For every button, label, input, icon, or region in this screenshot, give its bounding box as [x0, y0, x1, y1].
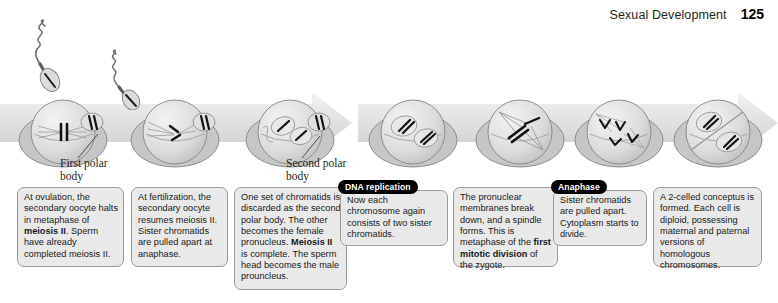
- stage-tab-anaphase-label: Anaphase: [558, 182, 600, 192]
- caption-first-mitotic-division-text: The pronuclear membranes break down, and…: [460, 192, 551, 270]
- cell-mitotic-anaphase: [572, 98, 668, 170]
- caption-fertilization-text: At fertilization, the secondary oocyte r…: [138, 192, 217, 259]
- label-second-polar-body-line2: body: [286, 170, 346, 183]
- running-head-title: Sexual Development: [609, 8, 726, 22]
- caption-anaphase-text: Sister chromatids are pulled apart. Cyto…: [560, 195, 639, 239]
- caption-second-polar-body: One set of chromatids is discarded as th…: [234, 187, 347, 290]
- caption-anaphase: Sister chromatids are pulled apart. Cyto…: [553, 190, 647, 246]
- cell-first-mitotic-metaphase: [473, 98, 569, 170]
- label-first-polar-body-line2: body: [60, 170, 108, 183]
- sperm-icon-2: [104, 48, 160, 110]
- caption-ovulation: At ovulation, the secondary oocyte halts…: [17, 187, 124, 267]
- caption-second-polar-body-text: One set of chromatids is discarded as th…: [241, 192, 341, 281]
- page-number: 125: [741, 6, 764, 22]
- caption-first-mitotic-division: The pronuclear membranes break down, and…: [453, 187, 558, 267]
- label-first-polar-body-line1: First polar: [60, 157, 108, 170]
- caption-dna-replication-text: Now each chromosome again consists of tw…: [347, 195, 432, 239]
- label-second-polar-body-line1: Second polar: [286, 157, 346, 170]
- caption-fertilization: At fertilization, the secondary oocyte r…: [131, 187, 228, 267]
- caption-two-celled-conceptus: A 2-celled conceptus is formed. Each cel…: [653, 187, 762, 267]
- cell-two-pronuclei: [366, 98, 462, 170]
- stage-tab-anaphase: Anaphase: [551, 180, 607, 194]
- cell-two-celled-conceptus: [671, 98, 767, 170]
- caption-dna-replication: Now each chromosome again consists of tw…: [340, 190, 448, 246]
- label-first-polar-body: First polar body: [60, 157, 108, 182]
- page-header: Sexual Development 125: [609, 6, 764, 22]
- stage-tab-dna-replication-label: DNA replication: [345, 182, 411, 192]
- stage-tab-dna-replication: DNA replication: [338, 180, 418, 194]
- sperm-icon-1: [14, 14, 74, 92]
- caption-two-celled-conceptus-text: A 2-celled conceptus is formed. Each cel…: [660, 192, 754, 270]
- caption-ovulation-text: At ovulation, the secondary oocyte halts…: [24, 192, 118, 259]
- label-second-polar-body: Second polar body: [286, 157, 346, 182]
- figure-page: Sexual Development 125: [0, 0, 778, 303]
